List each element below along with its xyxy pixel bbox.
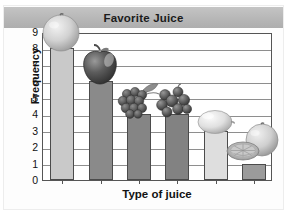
y-axis-tick-label: 8 <box>16 43 38 54</box>
gridline <box>43 165 271 166</box>
y-axis-tick-label: 4 <box>16 109 38 120</box>
x-axis-tick <box>254 180 255 184</box>
y-axis-tick-label: 0 <box>16 175 38 186</box>
plot-area <box>42 33 272 181</box>
y-axis-tick-label: 1 <box>16 159 38 170</box>
y-axis-tick-label: 7 <box>16 60 38 71</box>
bar-lemon <box>204 131 228 180</box>
y-axis-tick-label: 6 <box>16 76 38 87</box>
gridline <box>43 116 271 117</box>
gridline <box>43 99 271 100</box>
x-axis-title: Type of juice <box>42 188 272 200</box>
page-title: Favorite Juice <box>103 12 183 24</box>
bar-grape <box>127 114 151 180</box>
y-axis-tick-label: 5 <box>16 93 38 104</box>
gridline <box>43 66 271 67</box>
chart-title-band: Favorite Juice <box>4 7 283 28</box>
bar-orange <box>50 48 74 180</box>
gridline <box>43 50 271 51</box>
gridline <box>43 83 271 84</box>
y-axis-tick-label: 9 <box>16 27 38 38</box>
x-axis-tick <box>101 180 102 184</box>
x-axis-tick <box>177 180 178 184</box>
x-axis-tick <box>139 180 140 184</box>
x-axis-tick <box>62 180 63 184</box>
gridline <box>43 132 271 133</box>
bar-apple <box>89 81 113 180</box>
chart-figure: Favorite Juice Frequency Type of juice 0… <box>0 0 287 219</box>
bar-berry <box>165 114 189 180</box>
bar-grapefruit <box>242 164 266 180</box>
x-axis-tick <box>216 180 217 184</box>
gridline <box>43 149 271 150</box>
y-axis-tick-label: 3 <box>16 126 38 137</box>
y-axis-tick-label: 2 <box>16 142 38 153</box>
